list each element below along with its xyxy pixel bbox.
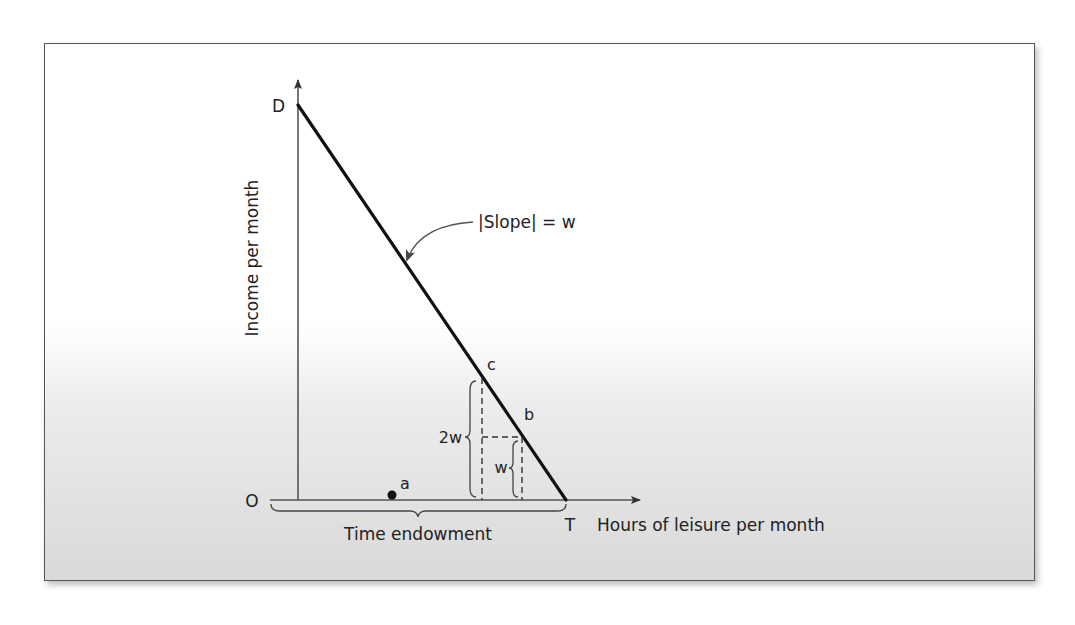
origin-label: O bbox=[245, 491, 258, 511]
point-label-c: c bbox=[487, 355, 496, 374]
y-axis-label: Income per month bbox=[242, 180, 262, 337]
x-axis-label: Hours of leisure per month bbox=[597, 515, 825, 535]
slope-arrow bbox=[407, 222, 473, 260]
time-endowment-label: Time endowment bbox=[343, 524, 492, 544]
point-label-d: D bbox=[272, 96, 285, 116]
brace-time-endowment bbox=[271, 504, 566, 517]
budget-line bbox=[298, 105, 566, 500]
budget-constraint-diagram: Income per month D O T Hours of leisure … bbox=[0, 0, 1075, 625]
brace-w-label: w bbox=[494, 458, 507, 477]
point-label-t: T bbox=[564, 515, 576, 535]
point-label-a: a bbox=[400, 474, 410, 493]
point-label-b: b bbox=[524, 405, 534, 424]
brace-2w-label: 2w bbox=[439, 428, 462, 447]
brace-w bbox=[509, 441, 518, 497]
brace-2w bbox=[465, 381, 476, 497]
point-a bbox=[388, 491, 397, 500]
slope-annotation: |Slope| = w bbox=[478, 212, 576, 232]
